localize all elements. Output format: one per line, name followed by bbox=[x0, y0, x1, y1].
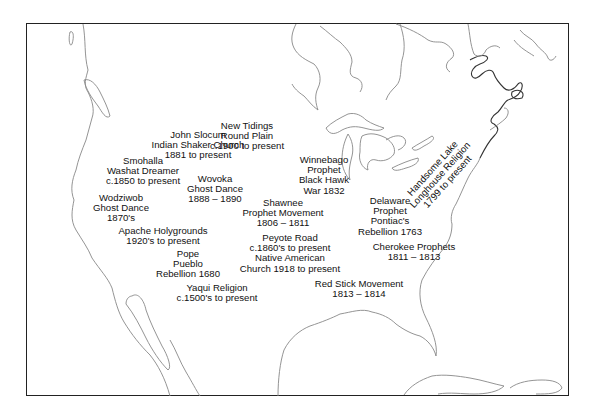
label-cherokee: Cherokee Prophets 1811 – 1813 bbox=[373, 242, 456, 262]
label-wodziwob: Wodziwob Ghost Dance 1870's bbox=[93, 193, 149, 224]
label-line: 1870's bbox=[93, 213, 149, 223]
label-yaqui: Yaqui Religion c.1500's to present bbox=[177, 283, 258, 303]
label-line: 1813 – 1814 bbox=[315, 289, 404, 299]
label-line: c.1500's to present bbox=[177, 293, 258, 303]
label-shawnee: Shawnee Prophet Movement 1806 – 1811 bbox=[242, 198, 323, 229]
label-winnebago: Winnebago Prophet Black Hawk War 1832 bbox=[299, 155, 349, 196]
label-apache: Apache Holygrounds 1920's to present bbox=[118, 226, 207, 246]
label-smohalla: Smohalla Washat Dreamer c.1850 to presen… bbox=[106, 156, 180, 187]
label-line: 1920's to present bbox=[118, 236, 207, 246]
label-line: c.1850 to present bbox=[106, 176, 180, 186]
label-line: Church 1918 to present bbox=[240, 264, 340, 274]
label-pope: Pope Pueblo Rebellion 1680 bbox=[156, 249, 220, 280]
label-peyote: Peyote Road c.1860's to present Native A… bbox=[240, 233, 340, 274]
label-line: Rebellion 1763 bbox=[358, 227, 422, 237]
label-line: 1811 – 1813 bbox=[373, 252, 456, 262]
label-line: Rebellion 1680 bbox=[156, 269, 220, 279]
label-wovoka: Wovoka Ghost Dance 1888 – 1890 bbox=[187, 174, 243, 205]
label-line: 1888 – 1890 bbox=[187, 194, 243, 204]
label-red-stick: Red Stick Movement 1813 – 1814 bbox=[315, 279, 404, 299]
label-line: 1806 – 1811 bbox=[242, 218, 323, 228]
label-line: War 1832 bbox=[299, 186, 349, 196]
